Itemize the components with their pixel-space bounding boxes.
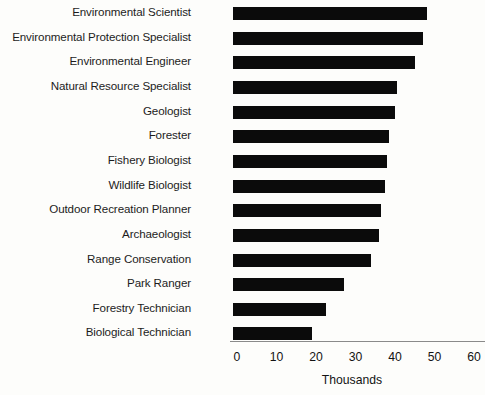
bar [233, 56, 415, 69]
category-label: Natural Resource Specialist [0, 80, 191, 92]
bar [233, 254, 371, 267]
x-axis-title: Thousands [292, 372, 412, 388]
x-axis-tick-labels: 0102030405060 [0, 349, 485, 367]
category-label: Range Conservation [0, 253, 191, 265]
category-label: Environmental Scientist [0, 6, 191, 18]
x-tick-label: 0 [217, 349, 257, 365]
bar [233, 278, 344, 291]
x-tick-label: 30 [336, 349, 376, 365]
bar-chart: Environmental ScientistEnvironmental Pro… [0, 0, 485, 395]
plot-area [233, 0, 485, 341]
bar [233, 303, 326, 316]
category-label: Park Ranger [0, 277, 191, 289]
x-tick-label: 60 [454, 349, 485, 365]
x-tick-label: 20 [296, 349, 336, 365]
bar [233, 7, 427, 20]
category-label: Wildlife Biologist [0, 179, 191, 191]
bar [233, 155, 387, 168]
bar [233, 327, 312, 340]
category-label: Fishery Biologist [0, 154, 191, 166]
x-tick-label: 40 [375, 349, 415, 365]
category-label: Outdoor Recreation Planner [0, 203, 191, 215]
bar [233, 229, 379, 242]
x-axis-line [230, 341, 485, 342]
bar [233, 81, 397, 94]
bar [233, 32, 423, 45]
category-label: Biological Technician [0, 326, 191, 338]
category-axis-labels: Environmental ScientistEnvironmental Pro… [0, 0, 214, 341]
bar [233, 106, 395, 119]
category-label: Geologist [0, 105, 191, 117]
bar [233, 204, 381, 217]
x-tick-label: 50 [415, 349, 455, 365]
category-label: Environmental Engineer [0, 55, 191, 67]
x-tick-label: 10 [257, 349, 297, 365]
category-label: Environmental Protection Specialist [0, 31, 191, 43]
category-label: Forestry Technician [0, 302, 191, 314]
category-label: Archaeologist [0, 228, 191, 240]
bar [233, 130, 389, 143]
category-label: Forester [0, 129, 191, 141]
bar [233, 180, 385, 193]
